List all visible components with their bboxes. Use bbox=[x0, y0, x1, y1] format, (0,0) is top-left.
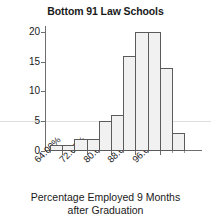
histogram-bar bbox=[87, 139, 100, 151]
y-tick-label-text: 10 bbox=[14, 86, 40, 96]
y-tick-label: 10 bbox=[10, 86, 40, 96]
x-minor-tick bbox=[184, 151, 185, 153]
y-tick-label: 15 bbox=[10, 57, 40, 67]
histogram-bar bbox=[74, 139, 87, 151]
x-tick-mark bbox=[160, 151, 161, 155]
bar-series bbox=[45, 26, 202, 151]
y-tick-label: 20 bbox=[10, 27, 40, 37]
histogram-figure: Bottom 91 Law Schools Frequency 05101520… bbox=[0, 0, 211, 220]
x-minor-tick bbox=[172, 151, 173, 153]
y-tick-label-text: 20 bbox=[14, 27, 40, 37]
histogram-bar bbox=[123, 56, 136, 151]
histogram-bar bbox=[148, 32, 161, 151]
page-title: Bottom 91 Law Schools bbox=[0, 5, 211, 17]
histogram-bar bbox=[172, 133, 185, 151]
histogram-bar bbox=[160, 68, 173, 151]
histogram-bar bbox=[62, 145, 75, 151]
histogram-bar bbox=[99, 121, 112, 151]
x-axis-label: Percentage Employed 9 Months after Gradu… bbox=[0, 191, 211, 217]
x-axis-label-line1: Percentage Employed 9 Months bbox=[0, 191, 211, 204]
y-tick-label-text: 15 bbox=[14, 57, 40, 67]
histogram-bar bbox=[135, 32, 148, 151]
x-axis-label-line2: after Graduation bbox=[0, 204, 211, 217]
y-tick-label: 5 bbox=[10, 116, 40, 126]
y-tick-label-text: 5 bbox=[14, 116, 40, 126]
